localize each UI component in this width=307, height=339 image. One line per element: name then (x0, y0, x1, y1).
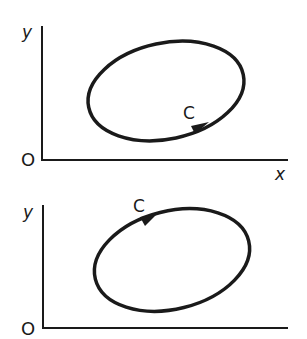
diagram-top: y O x C (0, 0, 307, 190)
y-axis-label: y (23, 204, 33, 221)
curve-label: C (183, 105, 195, 122)
origin-label: O (21, 320, 35, 338)
origin-label: O (21, 151, 35, 169)
y-axis-label: y (22, 24, 32, 41)
x-axis-label: x (275, 166, 285, 183)
closed-curve-c (83, 193, 260, 326)
closed-curve-c (79, 28, 254, 155)
diagram-bottom-canvas (0, 190, 307, 333)
curve-label: C (133, 198, 145, 215)
diagram-top-canvas (0, 0, 307, 190)
diagram-bottom: y O C (0, 190, 307, 333)
